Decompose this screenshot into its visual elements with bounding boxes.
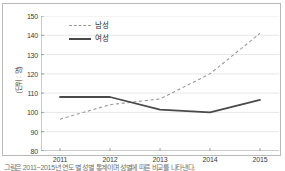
legend-item-male: 남성	[69, 21, 108, 30]
plot-area: 150 140 130 120 110 100 90 80 2011 2012 …	[41, 16, 279, 151]
y-tick-label-120: 120	[27, 70, 38, 77]
y-tick-label-90: 90	[31, 128, 38, 135]
x-tick-label-2014: 2014	[203, 156, 218, 163]
y-tick-label-130: 130	[27, 51, 38, 58]
y-tick-label-100: 100	[27, 109, 38, 116]
y-tick-label-140: 140	[27, 32, 38, 39]
chart-frame: (단위 : 명) 150 140 130 120 110 100 90 80 2…	[2, 3, 281, 156]
chart-caption: 그림은 2011~2015년 연도 별 성별 통계이며 성별에 따른 비교를 나…	[4, 163, 281, 171]
series-line-male	[60, 33, 260, 119]
y-axis-title: (단위 : 명)	[15, 66, 23, 93]
legend-label-male: 남성	[95, 22, 108, 30]
legend-label-female: 여성	[95, 35, 108, 43]
y-tick-label-150: 150	[27, 13, 38, 20]
chart-legend: 남성 여성	[69, 21, 108, 43]
y-tick-label-110: 110	[27, 90, 38, 97]
y-axis-ticks	[41, 16, 44, 151]
x-tick-label-2011: 2011	[53, 156, 67, 163]
solid-line-swatch-icon	[69, 38, 91, 40]
chart-figure: (단위 : 명) 150 140 130 120 110 100 90 80 2…	[0, 0, 285, 171]
legend-item-female: 여성	[69, 34, 108, 43]
y-tick-label-80: 80	[31, 148, 38, 155]
dashed-line-swatch-icon	[69, 25, 91, 26]
x-tick-label-2013: 2013	[153, 156, 168, 163]
x-tick-label-2012: 2012	[103, 156, 118, 163]
x-tick-label-2015: 2015	[253, 156, 268, 163]
